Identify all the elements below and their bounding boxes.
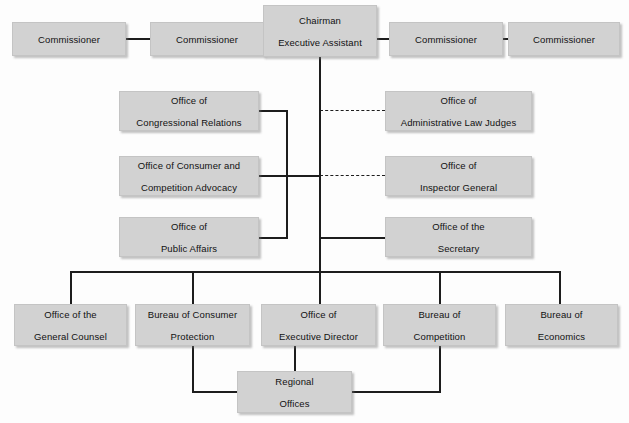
node-administrative-law-judges[interactable]: Office of Administrative Law Judges xyxy=(385,91,532,131)
node-label-line1: Bureau of xyxy=(540,308,582,321)
node-label-chairman: Chairman xyxy=(299,14,341,27)
node-congressional-relations[interactable]: Office of Congressional Relations xyxy=(119,91,259,131)
node-commissioner-2[interactable]: Commissioner xyxy=(150,22,264,56)
node-label-line2: General Counsel xyxy=(34,330,107,343)
node-label-line2: Economics xyxy=(538,330,585,343)
node-label-line1: Bureau of xyxy=(418,308,460,321)
node-label-line1: Office of the xyxy=(432,220,484,233)
node-commissioner-3[interactable]: Commissioner xyxy=(389,22,503,56)
node-regional-offices[interactable]: Regional Offices xyxy=(237,371,352,413)
node-commissioner-4[interactable]: Commissioner xyxy=(508,22,620,56)
edge-consumer-competition-advocacy-link xyxy=(259,175,320,177)
node-label-line2: Competition Advocacy xyxy=(141,181,237,194)
edge-drop-general-counsel xyxy=(70,271,72,304)
node-label: Commissioner xyxy=(176,33,238,46)
node-label-line1: Office of xyxy=(440,94,476,107)
edge-consumer-protection-to-regional-h xyxy=(192,391,238,393)
node-secretary[interactable]: Office of the Secretary xyxy=(385,217,532,257)
node-label-line2: Protection xyxy=(171,330,215,343)
edge-consumer-protection-to-regional-v xyxy=(192,346,194,392)
node-label-line2: Offices xyxy=(279,397,309,410)
node-label-line1: Office of the xyxy=(44,308,96,321)
org-chart: Commissioner Commissioner Chairman Execu… xyxy=(0,0,629,423)
node-label-line1: Office of xyxy=(171,94,207,107)
node-label-executive-assistant: Executive Assistant xyxy=(278,36,362,49)
edge-drop-bureau-consumer-protection xyxy=(192,271,194,304)
edge-drop-executive-director xyxy=(319,271,321,304)
edge-chairman-commissioner3 xyxy=(377,38,389,40)
node-label: Commissioner xyxy=(38,33,100,46)
node-general-counsel[interactable]: Office of the General Counsel xyxy=(14,304,127,346)
edge-administrative-law-judges-dashed xyxy=(320,110,385,111)
node-label-line2: Competition xyxy=(414,330,466,343)
edge-congressional-relations-link xyxy=(259,110,288,112)
edge-executive-director-to-regional xyxy=(294,346,296,372)
edge-competition-to-regional-h xyxy=(352,391,441,393)
node-label: Commissioner xyxy=(533,33,595,46)
node-label-line1: Regional xyxy=(275,375,313,388)
edge-commissioner1-commissioner2 xyxy=(126,38,150,40)
node-label-line1: Bureau of Consumer xyxy=(148,308,237,321)
node-label-line2: Executive Director xyxy=(279,330,358,343)
edge-left-trunk xyxy=(286,110,288,238)
node-label-line2: Public Affairs xyxy=(161,242,217,255)
node-inspector-general[interactable]: Office of Inspector General xyxy=(385,156,532,196)
node-public-affairs[interactable]: Office of Public Affairs xyxy=(119,217,259,257)
node-label: Commissioner xyxy=(415,33,477,46)
edge-chairman-spine xyxy=(319,57,321,271)
node-label-line2: Inspector General xyxy=(420,181,497,194)
node-label-line1: Office of xyxy=(171,220,207,233)
node-label-line1: Office of xyxy=(440,159,476,172)
node-label-line1: Office of Consumer and xyxy=(138,159,240,172)
edge-drop-bureau-competition xyxy=(439,271,441,304)
edge-bottom-bus xyxy=(70,271,560,273)
edge-secretary-link xyxy=(319,237,385,239)
edge-inspector-general-dashed xyxy=(320,175,385,176)
node-executive-director[interactable]: Office of Executive Director xyxy=(261,304,376,346)
edge-public-affairs-link xyxy=(259,237,288,239)
edge-drop-bureau-economics xyxy=(559,271,561,304)
node-commissioner-1[interactable]: Commissioner xyxy=(12,22,126,56)
edge-competition-to-regional-v xyxy=(439,346,441,392)
node-label-line1: Office of xyxy=(300,308,336,321)
node-chairman[interactable]: Chairman Executive Assistant xyxy=(263,5,377,57)
node-label-line2: Secretary xyxy=(438,242,480,255)
node-label-line2: Congressional Relations xyxy=(136,116,241,129)
node-label-line2: Administrative Law Judges xyxy=(401,116,517,129)
node-bureau-economics[interactable]: Bureau of Economics xyxy=(505,304,618,346)
node-consumer-competition-advocacy[interactable]: Office of Consumer and Competition Advoc… xyxy=(119,156,259,196)
node-bureau-competition[interactable]: Bureau of Competition xyxy=(383,304,496,346)
node-bureau-consumer-protection[interactable]: Bureau of Consumer Protection xyxy=(135,304,250,346)
